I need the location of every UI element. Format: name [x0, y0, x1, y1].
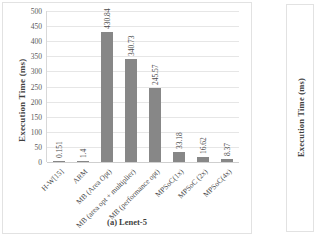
bar[interactable]: 245.57	[149, 88, 161, 162]
bar-value-label: 1.4	[78, 149, 87, 158]
bar-group[interactable]: 0.151H-W[15]	[53, 11, 65, 162]
y-axis-tick-label: 50	[35, 142, 43, 151]
y-axis-tick-label: 300	[31, 67, 42, 76]
bar-group[interactable]: 245.57MB (performance opt)	[149, 11, 161, 162]
bar[interactable]: 33.18	[173, 152, 185, 162]
figure-panel-lenet5: Execution Time (ms) 05010015020025030035…	[2, 2, 252, 234]
bar-value-label: 245.57	[150, 64, 159, 85]
figure-panel-adjacent: Execution Time (ms)	[286, 4, 314, 232]
bar-group[interactable]: 8.37MPSoC(4x)	[221, 11, 233, 162]
plot-area: 050100150200250300350400450500 0.151H-W[…	[47, 11, 239, 162]
y-axis-tick-label: 100	[31, 127, 42, 136]
bar-value-label: 340.73	[126, 35, 135, 56]
bar-value-label: 33.18	[174, 132, 183, 149]
y-axis-tick-label: 150	[31, 112, 42, 121]
x-axis-tick-label: H-W[15]	[40, 167, 66, 193]
bar-value-label: 8.37	[222, 143, 231, 156]
y-axis-tick-label: 0	[38, 158, 42, 167]
bar[interactable]: 430.84	[101, 32, 113, 162]
y-axis-tick-label: 400	[31, 37, 42, 46]
bar[interactable]: 16.62	[197, 157, 209, 162]
y-axis-tick-label: 250	[31, 82, 42, 91]
y-axis-title-adjacent: Execution Time (ms)	[296, 78, 306, 157]
bar-value-label: 0.151	[54, 142, 63, 159]
y-axis-tick-label: 500	[31, 7, 42, 16]
bar-value-label: 16.62	[198, 137, 207, 154]
bar[interactable]: 340.73	[125, 59, 137, 162]
bar[interactable]: 1.4	[77, 161, 89, 162]
y-axis-tick-label: 450	[31, 22, 42, 31]
gridline: 0	[47, 162, 239, 163]
bar-group[interactable]: 430.84MB (Area Opt)	[101, 11, 113, 162]
bar[interactable]: 8.37	[221, 159, 233, 162]
bar-group[interactable]: 1.4ARM	[77, 11, 89, 162]
y-axis-title: Execution Time (ms)	[17, 59, 27, 142]
y-axis-tick-label: 350	[31, 52, 42, 61]
bar-group[interactable]: 340.73MB (area opt + multiplier)	[125, 11, 137, 162]
x-axis-tick-label: ARM	[71, 167, 89, 185]
y-axis-tick-label: 200	[31, 97, 42, 106]
bar-value-label: 430.84	[102, 8, 111, 29]
bar[interactable]: 0.151	[53, 161, 65, 162]
figure-caption: (a) Lenet-5	[3, 217, 251, 227]
bar-group[interactable]: 16.62MPSoC (2x)	[197, 11, 209, 162]
bar-group[interactable]: 33.18MPSoC(1x)	[173, 11, 185, 162]
